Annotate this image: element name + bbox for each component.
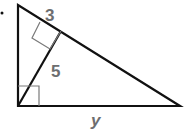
right-angle-marker-altitude [32,22,61,49]
label-5: 5 [51,62,60,81]
right-triangle [18,5,180,106]
label-y: y [90,111,102,130]
triangle-diagram: 3 5 y [0,0,191,135]
label-3: 3 [45,6,54,25]
bullet-dot [1,12,4,15]
